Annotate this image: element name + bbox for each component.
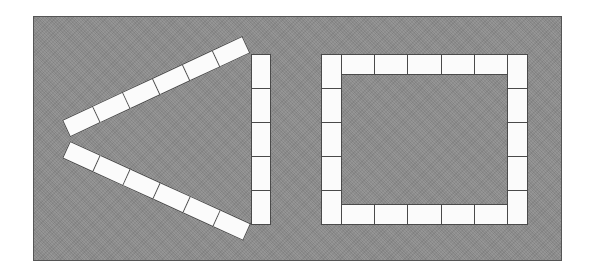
tile — [321, 123, 342, 157]
tile — [251, 157, 271, 191]
tile — [251, 191, 271, 225]
tile — [475, 54, 508, 75]
tile — [507, 89, 528, 123]
tile — [408, 54, 441, 75]
square-left-side — [321, 54, 342, 225]
tile — [442, 54, 475, 75]
tile — [321, 157, 342, 191]
tile — [507, 157, 528, 191]
tile — [251, 89, 271, 123]
tile — [341, 204, 375, 225]
tile — [442, 204, 475, 225]
tile — [375, 54, 408, 75]
square-right-side — [507, 54, 528, 225]
tile — [251, 54, 271, 89]
tile — [507, 191, 528, 225]
tile — [507, 54, 528, 89]
tile — [408, 204, 441, 225]
tile — [375, 204, 408, 225]
tile — [507, 123, 528, 157]
tile — [321, 54, 342, 89]
tile — [475, 204, 508, 225]
triangle-right-side — [251, 54, 271, 225]
tile — [341, 54, 375, 75]
square-bottom-side — [341, 204, 508, 225]
square-top-side — [341, 54, 508, 75]
tile — [321, 191, 342, 225]
tile — [321, 89, 342, 123]
tile — [251, 123, 271, 157]
